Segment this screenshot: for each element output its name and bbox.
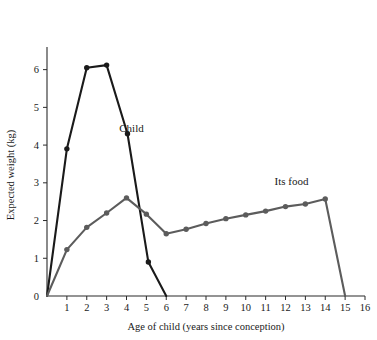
y-tick-label: 5 [34,102,39,113]
x-tick-label: 13 [300,302,311,313]
y-tick-label: 3 [34,177,39,188]
series-label-its-food: Its food [275,175,309,187]
data-point [104,62,109,67]
y-tick-label: 0 [34,291,39,302]
x-tick-label: 7 [184,302,189,313]
chart-figure: 012345612345678910111213141516 ChildIts … [0,0,377,340]
x-tick-label: 12 [280,302,291,313]
data-point [146,259,151,264]
x-tick-label: 15 [340,302,351,313]
data-point [164,231,169,236]
data-point [243,212,248,217]
line-chart: 012345612345678910111213141516 ChildIts … [0,0,377,340]
data-point [64,146,69,151]
x-tick-label: 6 [164,302,169,313]
data-point [323,196,328,201]
y-tick-label: 6 [34,64,39,75]
data-point [203,221,208,226]
data-point [183,227,188,232]
series-labels: ChildIts food [119,122,309,187]
data-point [303,201,308,206]
axes: 012345612345678910111213141516 [34,47,371,313]
x-tick-label: 14 [320,302,331,313]
x-tick-label: 3 [104,302,109,313]
x-tick-label: 5 [144,302,149,313]
series-line [47,198,345,296]
x-tick-label: 8 [203,302,208,313]
x-tick-label: 10 [241,302,252,313]
x-tick-label: 1 [64,302,69,313]
data-point [84,65,89,70]
x-axis-title: Age of child (years since conception) [127,321,285,333]
y-tick-label: 4 [34,140,40,151]
y-tick-label: 1 [34,253,39,264]
series-child [47,62,166,296]
x-tick-label: 11 [261,302,271,313]
data-point [124,195,129,200]
series-its-food [47,195,345,296]
series-label-child: Child [119,122,144,134]
data-point [283,204,288,209]
data-point [263,208,268,213]
data-point [144,211,149,216]
y-tick-label: 2 [34,215,39,226]
y-axis-title: Expected weight (kg) [5,129,17,220]
x-tick-label: 9 [223,302,228,313]
data-point [104,210,109,215]
data-point [84,225,89,230]
x-tick-label: 2 [84,302,89,313]
data-point [223,216,228,221]
data-point [64,247,69,252]
x-tick-label: 4 [124,302,130,313]
x-tick-label: 16 [360,302,371,313]
